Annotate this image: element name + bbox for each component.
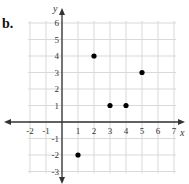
data-point: [107, 103, 112, 108]
x-tick-label: 2: [92, 126, 97, 136]
tick-labels: -2-11234567654321-1-2-3: [26, 18, 177, 177]
y-axis-label: y: [52, 3, 58, 14]
data-point: [123, 103, 128, 108]
x-axis-right-arrow-icon: [178, 119, 185, 125]
x-axis-left-arrow-icon: [4, 119, 11, 125]
y-tick-label: 3: [55, 68, 60, 78]
x-tick-label: 5: [140, 126, 145, 136]
y-tick-label: 5: [55, 35, 60, 45]
y-tick-label: 6: [55, 18, 60, 28]
x-tick-label: 3: [108, 126, 113, 136]
y-tick-label: -1: [52, 134, 60, 144]
coordinate-plane: xy -2-11234567654321-1-2-3: [0, 0, 189, 184]
grid-lines: [28, 21, 176, 174]
y-tick-label: 1: [55, 101, 60, 111]
x-tick-label: 1: [76, 126, 81, 136]
x-tick-label: 6: [156, 126, 161, 136]
y-tick-label: 4: [55, 51, 60, 61]
data-point: [91, 53, 96, 58]
x-axis-label: x: [179, 127, 185, 138]
y-axis-up-arrow-icon: [59, 8, 65, 15]
y-axis-down-arrow-icon: [59, 177, 65, 184]
x-tick-label: 7: [172, 126, 177, 136]
y-tick-label: -2: [52, 150, 60, 160]
y-tick-label: -3: [52, 167, 60, 177]
x-tick-label: 4: [124, 126, 129, 136]
x-tick-label: -1: [42, 126, 50, 136]
data-point: [75, 152, 80, 157]
data-point: [139, 70, 144, 75]
x-tick-label: -2: [26, 126, 34, 136]
y-tick-label: 2: [55, 84, 60, 94]
